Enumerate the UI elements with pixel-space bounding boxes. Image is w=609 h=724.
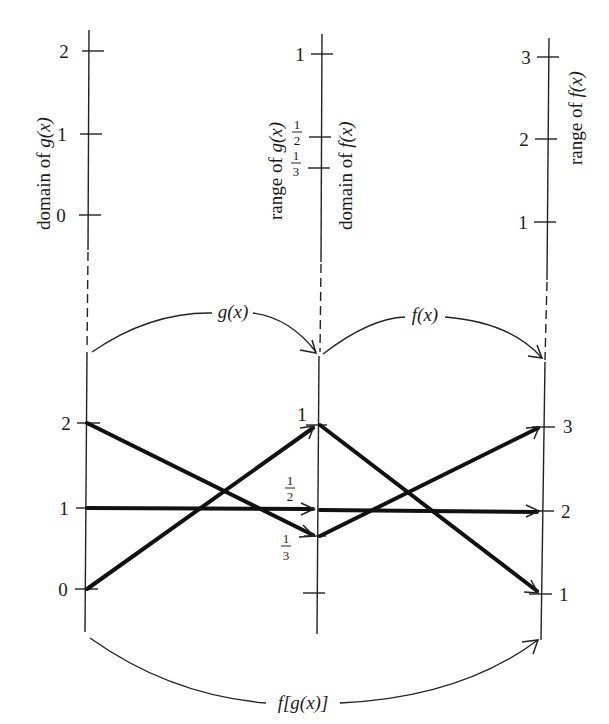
bottom-label-right-3: 3 [563,416,573,437]
axis-label-range-of-g: range of g(x) [265,122,287,220]
tick-label-range-3: 3 [521,47,531,68]
bottom-label-left-1: 1 [59,498,69,519]
arc-g [92,313,316,353]
bottom-label-middle-half: 1 2 [285,473,295,504]
svg-text:1: 1 [293,148,300,163]
tick-label-middle-half: 1 2 [292,117,302,148]
tick-label-range-2: 2 [519,129,529,150]
arc-label-composite: f[g(x)] [278,692,329,714]
composite-function-diagram: 2 1 0 domain of g(x) 1 1 2 1 3 range of … [0,0,609,724]
axis-label-range-of-f: range of f(x) [565,71,587,165]
tick-label-domain-2: 2 [59,41,69,62]
axis-label-domain-of-f: domain of f(x) [335,121,357,230]
svg-text:2: 2 [287,489,294,504]
axis-label-domain-of-g: domain of g(x) [33,117,55,230]
svg-text:1: 1 [287,473,294,488]
tick-label-domain-0: 0 [56,205,66,226]
middle-axis [303,34,333,634]
svg-text:2: 2 [294,133,301,148]
right-axis [529,38,559,640]
svg-text:3: 3 [283,548,290,563]
bottom-label-left-0: 0 [58,579,68,600]
bottom-label-right-2: 2 [561,501,571,522]
bottom-label-middle-third: 1 3 [281,531,291,563]
svg-text:3: 3 [293,164,300,179]
arc-label-g: g(x) [218,301,249,323]
tick-label-middle-third: 1 3 [291,148,301,179]
tick-label-domain-1: 1 [57,124,67,145]
arc-label-f: f(x) [412,304,438,326]
bottom-label-left-2: 2 [61,413,71,434]
svg-text:1: 1 [283,531,290,546]
bottom-label-middle-1: 1 [297,404,307,425]
bottom-label-right-1: 1 [559,584,569,605]
mapping-f-third-to-3 [320,427,539,536]
tick-label-range-1: 1 [518,212,528,233]
left-axis [75,30,104,632]
tick-label-middle-1: 1 [295,44,305,65]
svg-text:1: 1 [294,117,301,132]
mapping-g-1-to-half [87,503,314,515]
mapping-g-2-to-third [87,423,314,537]
